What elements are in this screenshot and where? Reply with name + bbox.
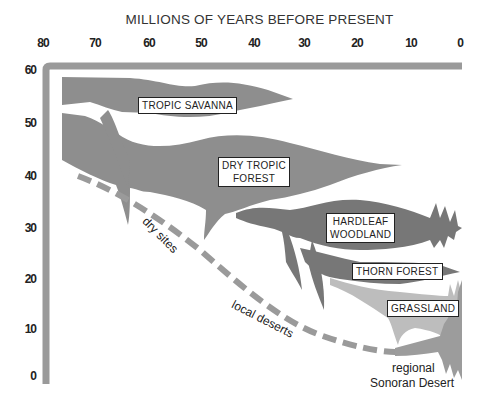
label-line: DRY TROPIC — [222, 159, 286, 172]
label-grassland: GRASSLAND — [387, 300, 459, 317]
vegetation-diagram — [0, 0, 489, 406]
woodland-stem-1 — [282, 232, 302, 290]
label-line: FOREST — [222, 172, 286, 185]
label-thorn-forest: THORN FOREST — [352, 263, 443, 280]
label-dry-tropic-forest: DRY TROPIC FOREST — [218, 157, 290, 187]
label-tropic-savanna: TROPIC SAVANNA — [138, 97, 237, 114]
annotation-regional: regional — [392, 361, 435, 375]
label-line: WOODLAND — [330, 228, 391, 241]
label-hardleaf-woodland: HARDLEAF WOODLAND — [326, 213, 395, 243]
label-line: HARDLEAF — [330, 215, 391, 228]
annotation-sonoran-desert: Sonoran Desert — [370, 376, 454, 390]
